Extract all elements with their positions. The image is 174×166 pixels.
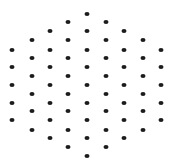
lattice-dot: [141, 109, 146, 113]
lattice-dot: [48, 136, 53, 140]
lattice-dot: [104, 56, 109, 60]
lattice-dot: [48, 48, 53, 52]
lattice-dot: [159, 83, 164, 87]
lattice-dot: [10, 65, 15, 69]
lattice-dot: [30, 109, 35, 113]
lattice-dot: [122, 101, 127, 105]
lattice-dot: [122, 136, 127, 140]
lattice-dot: [66, 74, 71, 78]
lattice-dot: [66, 128, 71, 132]
lattice-dot: [159, 101, 164, 105]
lattice-dot: [30, 74, 35, 78]
lattice-dot: [122, 48, 127, 52]
lattice-dot: [122, 29, 127, 33]
lattice-dot: [85, 83, 90, 87]
lattice-dot: [141, 38, 146, 42]
lattice-dot: [141, 74, 146, 78]
lattice-dot: [66, 92, 71, 96]
lattice-dot: [10, 83, 15, 87]
lattice-dot: [30, 128, 35, 132]
lattice-dot: [48, 65, 53, 69]
lattice-dot: [159, 118, 164, 122]
lattice-dot: [141, 56, 146, 60]
lattice-dot: [85, 118, 90, 122]
lattice-dot: [122, 118, 127, 122]
lattice-dot: [30, 56, 35, 60]
lattice-dot: [104, 74, 109, 78]
lattice-dot: [141, 128, 146, 132]
lattice-dot: [122, 65, 127, 69]
lattice-dot: [66, 38, 71, 42]
lattice-dot: [66, 109, 71, 113]
lattice-dot: [48, 83, 53, 87]
lattice-dot: [10, 118, 15, 122]
lattice-dot: [159, 48, 164, 52]
lattice-dot: [66, 20, 71, 24]
lattice-dot: [85, 65, 90, 69]
lattice-dot: [104, 38, 109, 42]
lattice-dot: [10, 48, 15, 52]
lattice-dot: [122, 83, 127, 87]
lattice-dot: [85, 12, 90, 16]
lattice-dot: [104, 128, 109, 132]
lattice-dot: [10, 101, 15, 105]
dot-lattice-diagram: [0, 0, 174, 166]
lattice-dot: [141, 92, 146, 96]
lattice-dot: [104, 92, 109, 96]
lattice-dot: [48, 29, 53, 33]
lattice-dot: [30, 92, 35, 96]
lattice-dot: [159, 65, 164, 69]
lattice-dot: [85, 154, 90, 158]
lattice-dot: [104, 109, 109, 113]
lattice-dot: [85, 29, 90, 33]
lattice-dot: [85, 136, 90, 140]
lattice-dot: [104, 145, 109, 149]
lattice-dot: [30, 38, 35, 42]
lattice-dot: [85, 48, 90, 52]
lattice-dot: [48, 101, 53, 105]
lattice-dot: [48, 118, 53, 122]
lattice-dot: [104, 20, 109, 24]
lattice-dot: [66, 56, 71, 60]
lattice-dot: [85, 101, 90, 105]
lattice-dot: [66, 145, 71, 149]
